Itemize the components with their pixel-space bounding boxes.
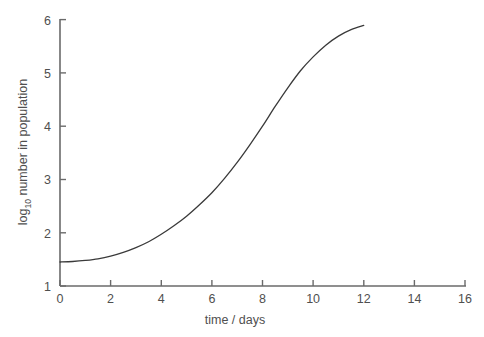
y-axis-tick-labels: 6 5 4 3 2 1 <box>44 14 51 295</box>
y-tick-label: 3 <box>44 173 51 187</box>
x-tick-label: 6 <box>208 292 215 306</box>
y-tick-label: 1 <box>44 280 51 294</box>
x-axis-tick-labels: 0 2 4 6 8 10 12 14 16 <box>57 292 472 306</box>
y-tick-label: 5 <box>44 67 51 81</box>
x-tick-label: 8 <box>259 292 266 306</box>
logistic-growth-chart: 6 5 4 3 2 1 0 2 4 6 8 10 12 14 16 time /… <box>0 0 484 337</box>
population-growth-curve <box>60 25 364 262</box>
y-axis-title-subscript: 10 <box>23 199 33 209</box>
figure-container: 6 5 4 3 2 1 0 2 4 6 8 10 12 14 16 time /… <box>0 0 484 337</box>
x-tick-label: 10 <box>306 292 320 306</box>
x-tick-label: 2 <box>107 292 114 306</box>
x-tick-label: 12 <box>357 292 371 306</box>
y-tick-label: 2 <box>44 227 51 241</box>
y-axis-title-rest: number in population <box>16 79 30 199</box>
x-tick-label: 14 <box>407 292 421 306</box>
x-tick-label: 16 <box>458 292 472 306</box>
y-tick-label: 6 <box>44 14 51 28</box>
y-axis-title: log10 number in population <box>16 79 33 225</box>
y-tick-label: 4 <box>44 120 51 134</box>
x-tick-label: 0 <box>57 292 64 306</box>
y-axis-ticks <box>60 20 66 286</box>
x-axis-title: time / days <box>205 313 265 327</box>
x-axis-ticks <box>60 280 465 286</box>
x-tick-label: 4 <box>158 292 165 306</box>
y-axis-title-main: log <box>16 208 30 225</box>
